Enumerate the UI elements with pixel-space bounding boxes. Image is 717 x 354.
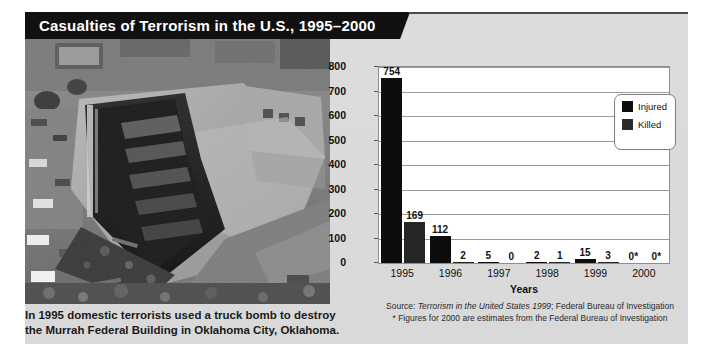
chart-legend: Injured Killed (614, 94, 676, 150)
caption-line-2: the Murrah Federal Building in Oklahoma … (25, 323, 355, 338)
photo-caption: In 1995 domestic terrorists used a truck… (25, 308, 355, 338)
bar-injured-1998 (526, 262, 547, 263)
y-axis-tick-mark (374, 66, 378, 67)
legend-label-injured: Injured (638, 101, 667, 112)
x-axis-title: Years (378, 283, 670, 295)
y-axis-tick-label: 0 (306, 256, 346, 268)
y-axis-tick-label: 800 (306, 60, 346, 72)
bar-injured-1996 (430, 236, 451, 263)
y-axis-tick-mark (374, 115, 378, 116)
y-axis-tick-label: 500 (306, 134, 346, 146)
x-axis-label-1996: 1996 (426, 267, 474, 279)
y-axis-tick-mark (374, 91, 378, 92)
x-axis-label-1999: 1999 (571, 267, 619, 279)
caption-line-1: In 1995 domestic terrorists used a truck… (25, 308, 355, 323)
legend-swatch-injured (622, 101, 633, 112)
page-title: Casualties of Terrorism in the U.S., 199… (25, 17, 376, 34)
photo-image (25, 39, 330, 304)
bar-killed-1996 (453, 262, 474, 263)
y-axis-tick-label: 300 (306, 183, 346, 195)
source-suffix: ; Federal Bureau of Investigation (551, 301, 674, 311)
legend-label-killed: Killed (638, 119, 661, 130)
bar-value-label: 169 (400, 210, 429, 221)
bar-value-label: 112 (426, 224, 455, 235)
y-axis-tick-label: 700 (306, 85, 346, 97)
x-axis-label-1997: 1997 (475, 267, 523, 279)
bar-injured-1995 (381, 78, 402, 263)
bar-killed-1999 (598, 262, 619, 263)
murrah-building-photo (25, 39, 330, 304)
y-axis-tick-label: 400 (306, 158, 346, 170)
source-footnote: * Figures for 2000 are estimates from th… (380, 312, 680, 324)
y-axis-tick-mark (374, 140, 378, 141)
source-note: Source: Terrorism in the United States 1… (380, 300, 680, 324)
bar-injured-1999 (575, 259, 596, 263)
bar-injured-1997 (478, 262, 499, 263)
y-axis-tick-label: 200 (306, 207, 346, 219)
source-prefix: Source: (386, 301, 418, 311)
bar-killed-1995 (404, 222, 425, 263)
source-title: Terrorism in the United States 1999 (418, 301, 551, 311)
x-axis-labels: 199519961997199819992000 (378, 267, 670, 283)
y-axis-tick-mark (374, 164, 378, 165)
source-line: Source: Terrorism in the United States 1… (380, 300, 680, 312)
y-axis-tick-label: 100 (306, 232, 346, 244)
x-axis-label-1998: 1998 (523, 267, 571, 279)
y-axis-tick-mark (374, 189, 378, 190)
x-axis-label-2000: 2000 (620, 267, 668, 279)
bar-value-label: 0* (642, 251, 671, 262)
y-axis-tick-mark (374, 213, 378, 214)
legend-item-killed: Killed (622, 119, 675, 130)
bar-value-label: 754 (377, 66, 406, 77)
plot-area: 754169112250211530*0* Injured Killed (378, 66, 670, 264)
legend-item-injured: Injured (622, 101, 675, 112)
infographic-page: Casualties of Terrorism in the U.S., 199… (0, 0, 717, 354)
x-axis-label-1995: 1995 (378, 267, 426, 279)
y-axis-tick-mark (374, 262, 378, 263)
y-axis-tick-mark (374, 238, 378, 239)
title-banner: Casualties of Terrorism in the U.S., 199… (25, 12, 390, 39)
legend-swatch-killed (622, 119, 633, 130)
bar-killed-1998 (549, 262, 570, 263)
bar-chart: 754169112250211530*0* Injured Killed 010… (340, 48, 680, 306)
y-axis-tick-label: 600 (306, 109, 346, 121)
